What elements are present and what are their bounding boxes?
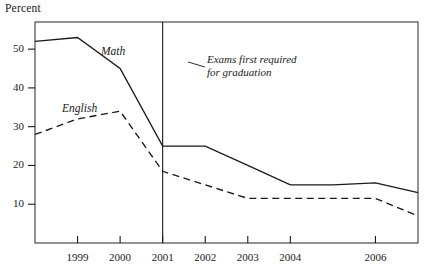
series-label-english: English: [62, 102, 97, 114]
annotation-line-2: for graduation: [207, 66, 297, 79]
x-tick-label: 2002: [182, 251, 228, 263]
y-tick-label: 30: [0, 120, 24, 132]
x-tick-label: 2001: [140, 251, 186, 263]
y-tick-label: 20: [0, 158, 24, 170]
y-tick-label: 10: [0, 197, 24, 209]
y-tick-label: 50: [0, 42, 24, 54]
annotation-leader-line: [188, 62, 205, 67]
annotation-exams-required: Exams first required for graduation: [207, 53, 297, 79]
series-line-english: [35, 111, 418, 216]
annotation-line-1: Exams first required: [207, 53, 297, 66]
chart-container: Percent 1020304050 199920002001200220032…: [0, 0, 431, 274]
y-tick-label: 40: [0, 81, 24, 93]
plot-area: [0, 0, 431, 274]
x-tick-marks: [78, 236, 376, 243]
x-tick-label: 2006: [352, 251, 398, 263]
x-tick-label: 2003: [225, 251, 271, 263]
series-label-math: Math: [101, 45, 125, 57]
x-tick-label: 1999: [55, 251, 101, 263]
y-tick-marks: [28, 49, 35, 204]
x-tick-label: 2004: [267, 251, 313, 263]
x-tick-label: 2000: [97, 251, 143, 263]
